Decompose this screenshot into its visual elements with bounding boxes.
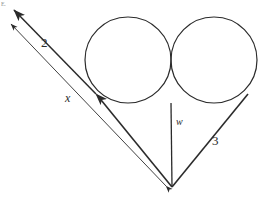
corner-mark-label: E. <box>1 1 6 7</box>
geometry-figure: E. 2 x w 3 <box>0 0 258 206</box>
vertical-segment-w <box>171 103 172 187</box>
label-segment-w: w <box>176 117 183 127</box>
label-segment-2: 2 <box>41 36 48 49</box>
v-right-arm <box>172 94 248 187</box>
label-segment-x: x <box>65 92 70 104</box>
right-circle <box>171 17 257 103</box>
label-segment-3: 3 <box>212 134 219 147</box>
left-circle <box>85 17 171 103</box>
dimension-arrow-x <box>11 24 166 186</box>
v-left-arm <box>97 95 172 187</box>
dimension-arrow-2 <box>14 10 96 94</box>
figure-canvas <box>0 0 258 206</box>
